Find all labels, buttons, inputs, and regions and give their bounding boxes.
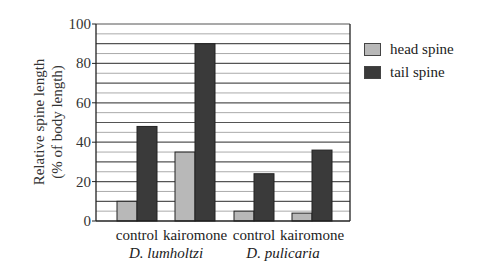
y-tick-label: 0 [84,213,92,229]
legend-item-tail-spine: tail spine [364,61,454,84]
y-tick-label: 80 [76,55,91,71]
head-spine-swatch [364,43,381,56]
y-tick-label: 60 [76,95,91,111]
tail-spine-bar [195,44,215,221]
y-tick-labels: 020406080100 [69,16,92,229]
head-spine-bar [234,211,254,221]
category-label: control [116,227,159,243]
legend-label: head spine [390,41,454,58]
y-tick-label: 100 [69,16,92,32]
group-label: D. lumholtzi [128,245,203,261]
legend: head spine tail spine [364,38,454,84]
category-label: kairomone [280,227,344,243]
y-axis-label-line1: Relative spine length [31,58,47,185]
legend-item-head-spine: head spine [364,38,454,61]
category-label: control [233,227,276,243]
x-category-labels: controlkairomonecontrolkairomoneD. lumho… [116,227,345,261]
tail-spine-bar [254,174,274,221]
tail-spine-swatch [364,66,381,79]
tail-spine-bar [137,126,157,221]
head-spine-bar [117,201,137,221]
y-tick-label: 20 [76,174,91,190]
legend-label: tail spine [390,64,445,81]
y-tick-label: 40 [76,134,91,150]
head-spine-bar [292,213,312,221]
group-label: D. pulicaria [245,245,319,261]
tail-spine-bar [312,150,332,221]
head-spine-bar [175,152,195,221]
y-axis-label-line2: (% of body length) [49,65,66,179]
category-label: kairomone [163,227,227,243]
